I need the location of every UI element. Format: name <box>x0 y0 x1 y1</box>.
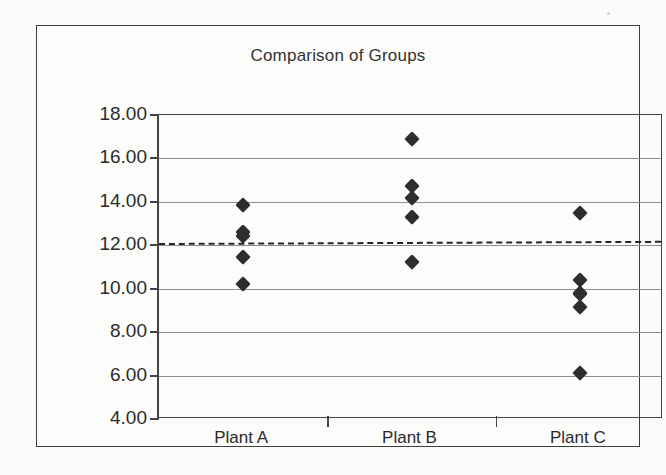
y-axis-labels: 18.0016.0014.0012.0010.008.006.004.00 <box>71 114 147 418</box>
y-axis-tick-label: 16.00 <box>99 146 147 168</box>
chart-screenshot: Comparison of Groups 18.0016.0014.0012.0… <box>0 0 666 475</box>
data-point-marker <box>572 299 588 315</box>
y-tick-mark <box>150 244 159 246</box>
data-point-marker <box>404 131 420 147</box>
y-axis-tick-label: 12.00 <box>99 233 147 255</box>
scan-speck <box>607 12 610 15</box>
y-tick-mark <box>150 288 159 290</box>
gridline <box>159 158 661 159</box>
y-axis-tick-label: 6.00 <box>110 364 147 386</box>
chart-title: Comparison of Groups <box>37 46 639 66</box>
data-point-marker <box>404 209 420 225</box>
y-tick-mark <box>150 157 159 159</box>
y-tick-mark <box>150 201 159 203</box>
y-axis-tick-label: 8.00 <box>110 320 147 342</box>
gridline <box>159 245 661 246</box>
plot-area <box>157 114 662 418</box>
y-tick-mark <box>150 114 159 116</box>
data-point-marker <box>404 190 420 206</box>
data-point-marker <box>235 277 251 293</box>
y-tick-mark <box>150 331 159 333</box>
y-axis-tick-label: 18.00 <box>99 103 147 125</box>
gridline <box>159 332 661 333</box>
gridline <box>159 376 661 377</box>
x-axis-tick-label: Plant B <box>382 428 437 448</box>
y-tick-mark <box>150 418 159 420</box>
y-axis-tick-label: 10.00 <box>99 277 147 299</box>
chart-frame: Comparison of Groups 18.0016.0014.0012.0… <box>36 25 640 447</box>
data-point-marker <box>235 197 251 213</box>
x-axis-tick-label: Plant A <box>214 428 268 448</box>
data-point-marker <box>404 254 420 270</box>
data-point-marker <box>235 249 251 265</box>
data-point-marker <box>572 366 588 382</box>
y-axis-tick-label: 14.00 <box>99 190 147 212</box>
category-separator-tick <box>327 416 329 427</box>
x-axis-tick-label: Plant C <box>550 428 606 448</box>
y-axis-tick-label: 4.00 <box>110 407 147 429</box>
category-separator-tick <box>496 416 498 427</box>
reference-line <box>159 241 661 245</box>
y-tick-mark <box>150 375 159 377</box>
data-point-marker <box>572 205 588 221</box>
gridline <box>159 289 661 290</box>
